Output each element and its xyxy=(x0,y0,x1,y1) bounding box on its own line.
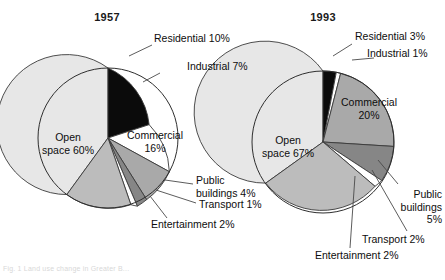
callout-1993-entertainment: Entertainment 2% xyxy=(315,249,398,261)
leader-1957-entertainment xyxy=(150,196,167,218)
label-1957-open-space: Open space 60% xyxy=(26,131,110,156)
label-1993-commercial: Commercial 20% xyxy=(331,96,407,121)
label-1957-commercial-line1: Commercial xyxy=(117,129,193,142)
label-1957-open-space-line1: Open xyxy=(26,131,110,144)
leader-1957-public-buildings xyxy=(165,180,193,184)
callout-1957-residential: Residential 10% xyxy=(154,32,230,44)
callout-1957-public-buildings: Public buildings 4% xyxy=(196,174,276,199)
leader-1993-residential xyxy=(333,44,352,56)
label-1957-commercial-line2: 16% xyxy=(117,142,193,155)
land-use-pie-figure: 1957 1993 Open space 60% Commercial 16% … xyxy=(0,0,445,280)
callout-1993-industrial: Industrial 1% xyxy=(367,47,428,59)
figure-caption: Fig. 1 Land use change in Greater B... xyxy=(3,265,129,272)
leader-1957-industrial xyxy=(143,73,160,82)
label-1993-commercial-line2: 20% xyxy=(331,109,407,122)
leader-1957-residential xyxy=(129,45,152,56)
label-1957-open-space-line2: space 60% xyxy=(26,144,110,157)
callout-1993-public-buildings-line1: Public xyxy=(378,188,442,201)
label-1957-commercial: Commercial 16% xyxy=(117,129,193,154)
chart-title-1957: 1957 xyxy=(77,11,137,23)
label-1993-open-space-line1: Open xyxy=(246,134,330,147)
leader-1957-transport xyxy=(156,190,196,203)
callout-1957-public-buildings-line1: Public xyxy=(196,174,276,187)
callout-1993-public-buildings-line3: 5% xyxy=(378,213,442,226)
callout-1993-public-buildings-line2: buildings xyxy=(378,201,442,214)
label-1993-commercial-line1: Commercial xyxy=(331,96,407,109)
callout-1993-public-buildings: Public buildings 5% xyxy=(378,188,442,226)
label-1993-open-space: Open space 67% xyxy=(246,134,330,159)
callout-1957-transport: Transport 1% xyxy=(199,198,262,210)
label-1993-open-space-line2: space 67% xyxy=(246,147,330,160)
callout-1993-transport: Transport 2% xyxy=(362,233,425,245)
chart-title-1993: 1993 xyxy=(293,11,353,23)
callout-1993-residential: Residential 3% xyxy=(355,30,425,42)
callout-1957-entertainment: Entertainment 2% xyxy=(151,218,234,230)
callout-1957-industrial: Industrial 7% xyxy=(187,60,248,72)
